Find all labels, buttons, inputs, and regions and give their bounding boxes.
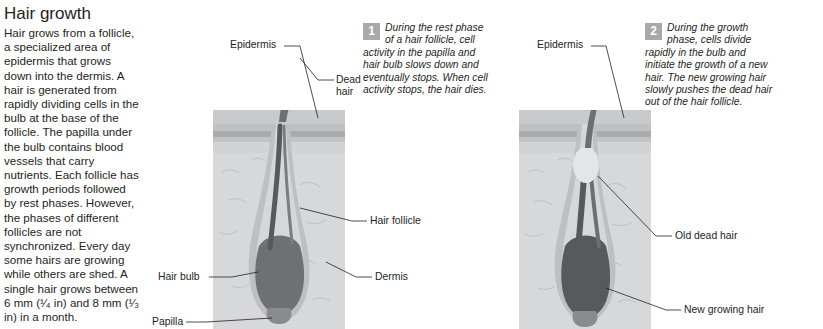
label-epidermis-right: Epidermis <box>537 39 583 51</box>
label-papilla: Papilla <box>152 316 183 328</box>
diagram-root: Hair growth Hair grows from a follicle, … <box>0 0 823 329</box>
label-epidermis-left: Epidermis <box>230 39 276 51</box>
note-1-text: During the rest phase of a hair follicle… <box>363 22 488 95</box>
label-dead-hair: Dead hair <box>336 74 368 98</box>
note-2: 2 During the growth phase, cells divide … <box>645 22 775 109</box>
note-1-number: 1 <box>363 23 380 40</box>
label-dermis: Dermis <box>375 271 408 283</box>
note-1: 1 During the rest phase of a hair follic… <box>363 22 493 96</box>
label-old-dead-hair: Old dead hair <box>675 230 737 242</box>
label-hair-follicle: Hair follicle <box>370 215 421 227</box>
note-2-number: 2 <box>645 23 662 40</box>
label-hair-bulb: Hair bulb <box>158 271 200 283</box>
label-new-growing-hair: New growing hair <box>684 304 764 316</box>
note-2-text: During the growth phase, cells divide ra… <box>645 22 772 107</box>
